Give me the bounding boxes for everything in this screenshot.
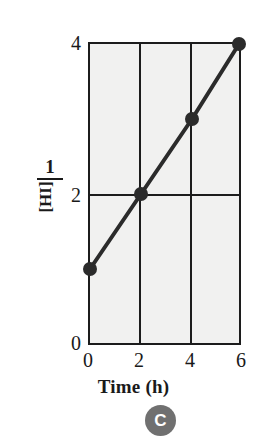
x-axis-title: Time (h) — [0, 376, 267, 398]
figure-panel: 4 2 0 0 2 4 6 Time (h) 1 [HI] C — [0, 0, 267, 448]
y-axis-title-numerator: 1 — [28, 157, 72, 177]
y-tick-label-4: 4 — [55, 33, 81, 53]
y-axis-title-denominator: [HI] — [37, 181, 63, 212]
plot-area — [88, 42, 241, 345]
y-axis-title-denominator-wrap: [HI] — [28, 182, 72, 212]
x-tick-label-6: 6 — [226, 350, 256, 370]
x-tick-label-4: 4 — [175, 350, 205, 370]
x-tick-label-2: 2 — [124, 350, 154, 370]
gridline-horizontal-y2 — [90, 194, 239, 196]
x-tick-label-0: 0 — [73, 350, 103, 370]
y-axis-title: 1 [HI] — [28, 157, 72, 212]
panel-badge: C — [145, 405, 176, 436]
fraction-bar — [37, 178, 63, 180]
